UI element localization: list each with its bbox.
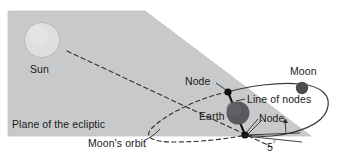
- node-lower-label: Node: [259, 113, 285, 124]
- sun-label: Sun: [30, 64, 49, 75]
- node-upper-label: Node: [185, 76, 211, 87]
- sun-highlight-icon: [28, 25, 48, 45]
- moons-orbit-label: Moon's orbit: [88, 138, 146, 149]
- plane-of-the-ecliptic-label: Plane of the ecliptic: [12, 119, 105, 130]
- diagram-canvas: [0, 0, 337, 161]
- line-of-nodes-label: Line of nodes: [247, 94, 311, 105]
- degree-symbol-icon: °: [273, 140, 276, 147]
- earth-shading-icon: [227, 102, 242, 117]
- earth-label: Earth: [199, 111, 225, 122]
- inclination-angle-label: 5°: [267, 141, 276, 152]
- moon-label: Moon: [290, 66, 317, 77]
- moon-orbit-diagram: Sun Plane of the ecliptic Moon's orbit N…: [0, 0, 337, 161]
